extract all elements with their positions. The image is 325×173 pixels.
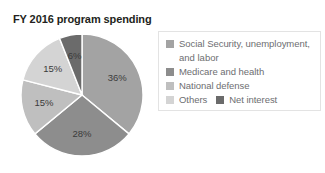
chart-legend: Social Security, unemployment, and labor… [158,31,321,111]
pie-slice-value-label: 36% [108,72,128,83]
pie-slice-value-label: 15% [43,63,63,74]
pie-chart-figure: FY 2016 program spending 36%28%15%15%6% … [0,0,325,173]
pie-plot-area: 36%28%15%15%6% [20,33,144,157]
legend-item-medicare: Medicare and health [166,66,314,78]
legend-swatch-national-defense [166,82,174,90]
pie-slice-value-label: 28% [72,128,92,139]
legend-swatch-net-interest [216,96,224,104]
page-title: FY 2016 program spending [13,13,152,25]
legend-item-others-and-net-interest: Others Net interest [166,94,314,106]
pie-slice-value-label: 6% [68,50,82,61]
legend-label-others: Others [179,94,207,106]
legend-label-national-defense: National defense [179,80,250,92]
legend-label-social-security-line2: and labor [179,52,314,64]
pie-svg: 36%28%15%15%6% [20,33,144,157]
legend-swatch-social-security [166,40,174,48]
legend-item-social-security: Social Security, unemployment, [166,38,314,50]
legend-label-net-interest: Net interest [229,94,277,106]
legend-label-medicare: Medicare and health [179,66,264,78]
legend-label-social-security: Social Security, unemployment, [179,38,310,50]
legend-swatch-medicare [166,68,174,76]
pie-slice-value-label: 15% [34,97,54,108]
legend-swatch-others [166,96,174,104]
legend-item-national-defense: National defense [166,80,314,92]
